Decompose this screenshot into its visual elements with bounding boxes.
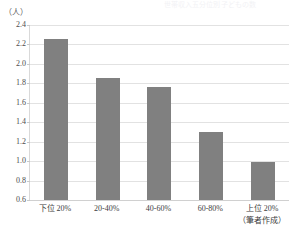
y-tick-label: 1.2 (0, 138, 26, 146)
y-tick-label: 2.4 (0, 21, 26, 29)
y-tick-label: 2.2 (0, 40, 26, 48)
bar-chart: 世帯収入五分位別 子どもの数 （人） 2.42.22.01.81.61.41.2… (0, 0, 296, 235)
y-tick-label: 2.0 (0, 60, 26, 68)
bar (199, 132, 223, 200)
bars-group (30, 25, 289, 200)
x-tick-label: 40-60% (133, 203, 185, 214)
bar (147, 87, 171, 200)
bar-slot (82, 25, 134, 200)
bar-slot (30, 25, 82, 200)
source-note: （筆者作成） (236, 215, 288, 226)
y-tick-label: 1.4 (0, 118, 26, 126)
bar (96, 78, 120, 200)
y-tick-mark (27, 200, 30, 201)
y-tick-label: 0.6 (0, 196, 26, 204)
y-tick-label: 1.6 (0, 99, 26, 107)
bar-slot (134, 25, 186, 200)
y-tick-label: 0.8 (0, 177, 26, 185)
gridline (30, 200, 289, 201)
bar-slot (185, 25, 237, 200)
x-tick-label: 下位 20% (29, 203, 81, 214)
faint-cut-off-title: 世帯収入五分位別 子どもの数 (130, 0, 290, 9)
bar (44, 39, 68, 200)
plot-area (29, 25, 288, 200)
x-tick-label: 上位 20% (236, 203, 288, 214)
y-tick-label: 1.0 (0, 157, 26, 165)
x-tick-label: 20-40% (81, 203, 133, 214)
y-tick-label: 1.8 (0, 79, 26, 87)
y-axis-unit-label: （人） (4, 8, 28, 18)
x-tick-label: 60-80% (184, 203, 236, 214)
bar-slot (237, 25, 289, 200)
bar (251, 162, 275, 200)
